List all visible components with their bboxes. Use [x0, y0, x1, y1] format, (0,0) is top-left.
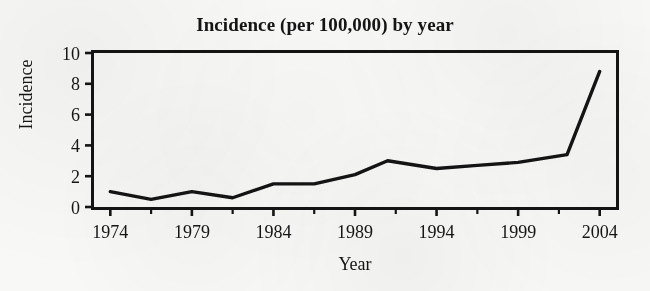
x-tick-label-2004: 2004 — [582, 222, 618, 242]
x-axis-tick-labels: 1974197919841989199419992004 — [92, 222, 617, 242]
y-tick-label-2: 2 — [71, 167, 80, 187]
series-line-Incidence — [110, 71, 599, 199]
incidence-line-chart-figure: Incidence (per 100,000) by year Incidenc… — [0, 0, 650, 291]
y-tick-label-6: 6 — [71, 105, 80, 125]
x-tick-label-1979: 1979 — [174, 222, 210, 242]
y-tick-label-4: 4 — [71, 136, 80, 156]
plot-frame-rect — [93, 52, 618, 209]
x-tick-label-1989: 1989 — [337, 222, 373, 242]
y-tick-label-8: 8 — [71, 74, 80, 94]
x-tick-label-1974: 1974 — [92, 222, 128, 242]
x-tick-label-1984: 1984 — [255, 222, 291, 242]
x-tick-label-1994: 1994 — [419, 222, 455, 242]
data-series-group — [110, 71, 599, 199]
x-tick-label-1999: 1999 — [500, 222, 536, 242]
plot-area: 0246810 1974197919841989199419992004 — [0, 0, 650, 291]
y-axis-tick-labels: 0246810 — [62, 44, 80, 218]
y-tick-label-0: 0 — [71, 198, 80, 218]
plot-frame — [93, 52, 618, 209]
y-tick-label-10: 10 — [62, 44, 80, 64]
